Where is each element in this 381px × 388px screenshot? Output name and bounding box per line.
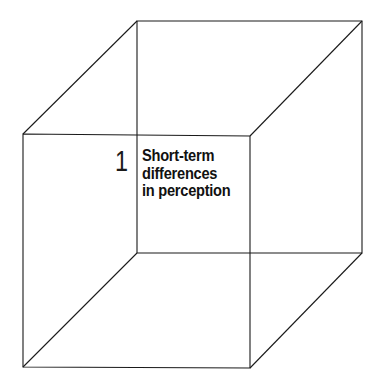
label-line-1: Short-term	[142, 147, 230, 165]
label-line-2: differences	[142, 165, 230, 183]
label-text: Short-term differences in perception	[142, 147, 230, 200]
label-line-3: in perception	[142, 182, 230, 200]
cube-edge-bottom-right	[250, 253, 362, 368]
cube-edge-top-right	[250, 21, 362, 136]
cube-edge-top-left	[23, 21, 137, 134]
label-number: 1	[115, 146, 128, 176]
cube-edge-bottom-left	[23, 253, 137, 367]
